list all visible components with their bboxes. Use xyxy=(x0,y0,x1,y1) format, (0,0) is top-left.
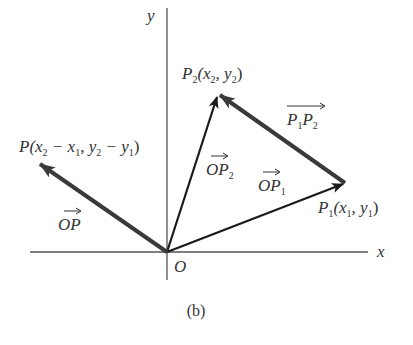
svg-text:OP1: OP1 xyxy=(258,176,286,197)
y-axis-label: y xyxy=(145,6,155,25)
vector-diagram: x y O P2(x2, y2) P1(x1, y1) P(x2 − x1, y… xyxy=(0,0,413,345)
point-p1-label: P1(x1, y1) xyxy=(317,198,378,219)
svg-text:OP2: OP2 xyxy=(206,160,234,181)
figure-caption: (b) xyxy=(187,302,206,320)
vector-op1-label: OP1 xyxy=(258,169,286,197)
point-p-label: P(x2 − x1, y2 − y1) xyxy=(18,137,139,158)
vector-p1p2 xyxy=(220,95,345,183)
vector-op xyxy=(40,164,167,252)
origin-label: O xyxy=(174,257,186,276)
point-p2-label: P2(x2, y2) xyxy=(181,64,242,85)
svg-text:OP: OP xyxy=(58,215,81,234)
vector-op1 xyxy=(167,184,343,252)
vector-op2-label: OP2 xyxy=(206,153,234,181)
x-axis-label: x xyxy=(376,242,385,261)
vector-op-label: OP xyxy=(58,208,81,234)
svg-text:P1P2: P1P2 xyxy=(286,110,318,131)
vector-p1p2-label: P1P2 xyxy=(286,103,325,131)
